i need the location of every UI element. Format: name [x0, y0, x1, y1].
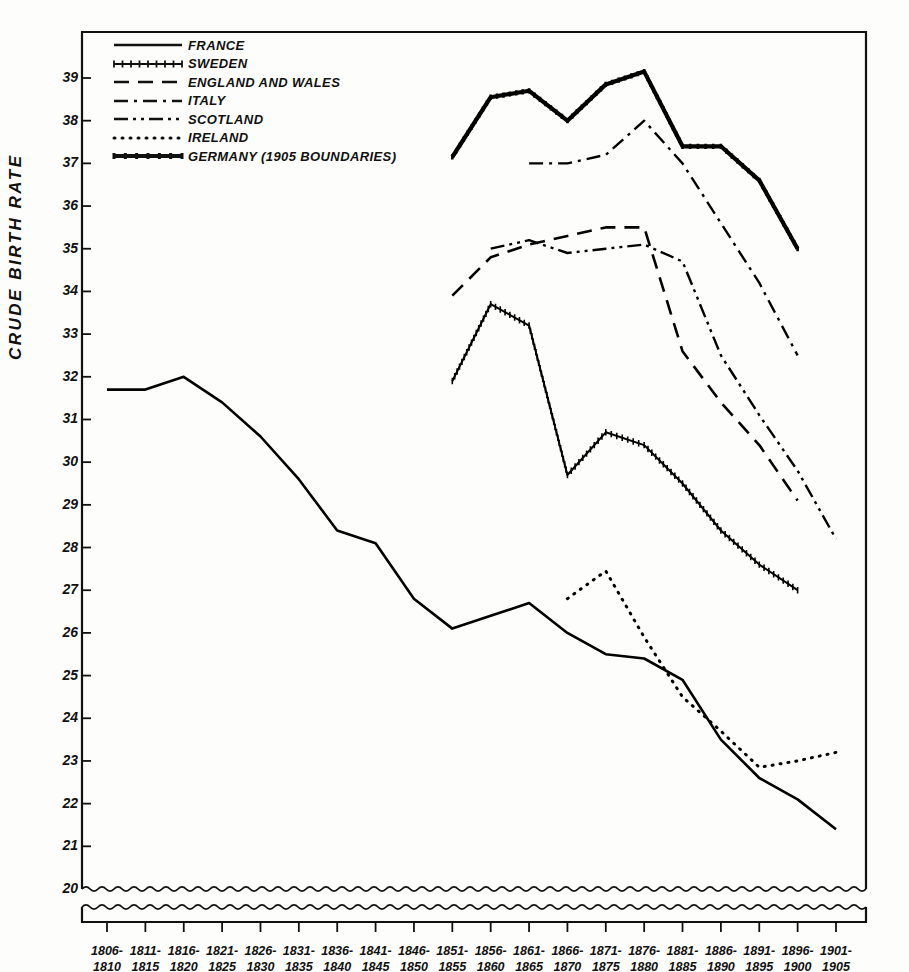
legend-item-ireland[interactable]: IRELAND	[112, 129, 422, 148]
y-tick-label: 29	[44, 496, 78, 512]
y-axis-tick-labels: 2021222324252627282930313233343536373839	[36, 0, 78, 972]
series-line-germany-1905-boundaries	[452, 69, 797, 251]
y-tick-label: 30	[44, 453, 78, 469]
y-tick-label: 25	[44, 667, 78, 683]
y-axis-title: CRUDE BIRTH RATE	[6, 60, 26, 360]
legend-label: GERMANY (1905 BOUNDARIES)	[188, 149, 396, 164]
y-tick-label: 33	[44, 325, 78, 341]
legend-key-icon	[112, 131, 184, 145]
series-line-england-and-wales	[452, 227, 797, 500]
legend-label: FRANCE	[188, 38, 245, 53]
x-axis-tick-labels: 1806-18101811-18151816-18201821-18251826…	[0, 922, 909, 972]
legend-item-france[interactable]: FRANCE	[112, 36, 422, 55]
chart-legend: FRANCESWEDENENGLAND AND WALESITALYSCOTLA…	[112, 36, 422, 166]
series-line-italy	[529, 121, 798, 356]
axis-break-wave-upper	[82, 887, 866, 891]
y-tick-label: 35	[44, 240, 78, 256]
y-tick-label: 27	[44, 581, 78, 597]
legend-label: SCOTLAND	[188, 112, 263, 127]
series-line-france	[107, 377, 836, 829]
y-tick-label: 31	[44, 410, 78, 426]
y-tick-label: 21	[44, 837, 78, 853]
legend-key-icon	[112, 38, 184, 52]
legend-item-sweden[interactable]: SWEDEN	[112, 55, 422, 74]
series-line-ireland	[567, 571, 836, 767]
x-tick-label: 1901-1905	[801, 944, 871, 972]
y-tick-label: 38	[44, 112, 78, 128]
legend-item-england-and-wales[interactable]: ENGLAND AND WALES	[112, 73, 422, 92]
legend-item-germany-1905-boundaries[interactable]: GERMANY (1905 BOUNDARIES)	[112, 147, 422, 166]
legend-label: ITALY	[188, 93, 226, 108]
legend-label: IRELAND	[188, 130, 249, 145]
legend-key-icon	[112, 94, 184, 108]
legend-key-icon	[112, 112, 184, 126]
y-tick-label: 34	[44, 282, 78, 298]
legend-key-icon	[112, 149, 184, 163]
y-tick-label: 39	[44, 69, 78, 85]
legend-key-icon	[112, 57, 184, 71]
y-tick-label: 24	[44, 709, 78, 725]
axis-break-wave-lower	[82, 905, 866, 909]
y-tick-label: 20	[44, 880, 78, 896]
chart-figure: CRUDE BIRTH RATE 20212223242526272829303…	[0, 0, 909, 972]
series-line-sweden	[452, 301, 797, 593]
legend-item-italy[interactable]: ITALY	[112, 92, 422, 111]
legend-label: SWEDEN	[188, 56, 247, 71]
y-tick-label: 28	[44, 539, 78, 555]
y-tick-label: 36	[44, 197, 78, 213]
y-tick-label: 26	[44, 624, 78, 640]
legend-item-scotland[interactable]: SCOTLAND	[112, 110, 422, 129]
y-tick-label: 22	[44, 795, 78, 811]
legend-key-icon	[112, 75, 184, 89]
legend-label: ENGLAND AND WALES	[188, 75, 340, 90]
y-tick-label: 23	[44, 752, 78, 768]
y-tick-label: 32	[44, 368, 78, 384]
y-tick-label: 37	[44, 154, 78, 170]
